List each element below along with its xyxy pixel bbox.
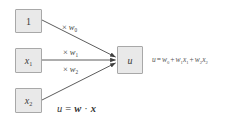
input-x2-label: x2	[25, 95, 33, 106]
weight-w1-label: ×w1	[63, 47, 78, 57]
input-x1-label: x1	[25, 55, 33, 66]
equation-expanded: u=w0+w1x1+w2x2	[152, 55, 208, 64]
edge-x2-to-u	[42, 63, 116, 100]
input-x2-node: x2	[15, 88, 42, 113]
perceptron-diagram: 1 x1 x2 u ×w0 ×w1 ×w2 u=w0+w1x1+w2x2 u=w…	[0, 0, 235, 128]
equation-vector: u=w·x	[57, 103, 96, 114]
output-u-label: u	[128, 55, 133, 66]
output-u-node: u	[117, 46, 143, 74]
bias-node: 1	[15, 9, 42, 33]
weight-w0-label: ×w0	[62, 22, 77, 32]
bias-node-label: 1	[26, 16, 31, 27]
weight-w2-label: ×w2	[63, 64, 78, 74]
input-x1-node: x1	[15, 48, 42, 73]
edge-bias-to-u	[42, 20, 116, 57]
